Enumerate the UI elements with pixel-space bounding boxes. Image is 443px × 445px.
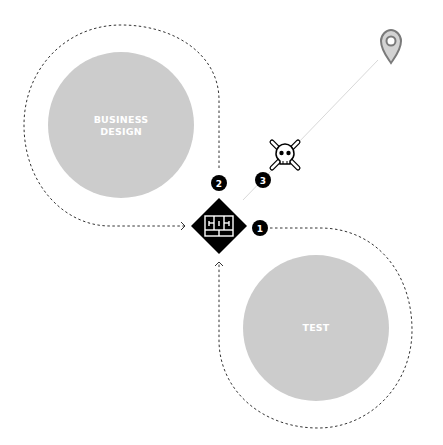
phase-label: TEST bbox=[302, 322, 329, 333]
step-badge-3: 3 bbox=[255, 172, 271, 188]
phase-label-line-1: BUSINESS bbox=[94, 114, 149, 125]
map-pin-icon[interactable] bbox=[381, 30, 401, 63]
phase-business-design[interactable]: BUSINESS DESIGN bbox=[48, 52, 194, 198]
svg-text:1: 1 bbox=[257, 224, 263, 234]
svg-text:2: 2 bbox=[216, 179, 222, 189]
skull-crossbones-icon bbox=[272, 142, 298, 168]
svg-text:3: 3 bbox=[260, 176, 266, 186]
center-node[interactable] bbox=[191, 198, 247, 254]
phase-label-line-2: DESIGN bbox=[100, 126, 142, 137]
flow-diagram: BUSINESS DESIGN TEST 1 2 3 bbox=[0, 0, 443, 445]
step-badge-1: 1 bbox=[252, 220, 268, 236]
phase-test[interactable]: TEST bbox=[243, 255, 389, 401]
step-badge-2: 2 bbox=[211, 175, 227, 191]
